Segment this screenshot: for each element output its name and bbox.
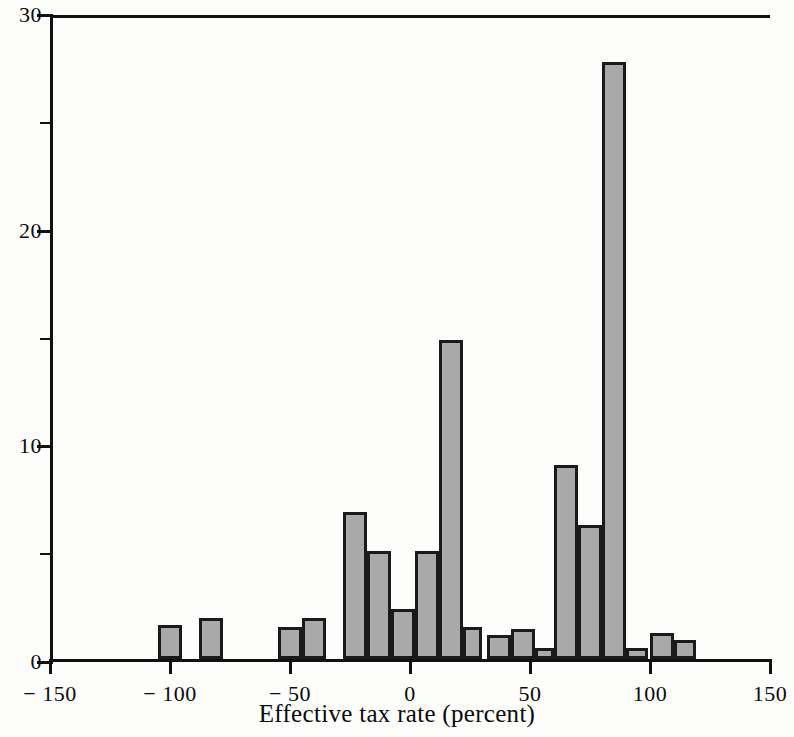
y-axis-tick-label: 30 bbox=[19, 4, 42, 26]
x-axis-tick bbox=[169, 659, 172, 674]
histogram-bar bbox=[650, 633, 674, 659]
histogram-bar bbox=[511, 629, 535, 659]
top-frame-line bbox=[50, 15, 770, 18]
y-axis-tick-label: 0 bbox=[31, 651, 43, 673]
histogram-bar bbox=[391, 609, 415, 659]
histogram-bar bbox=[578, 525, 602, 659]
plot-area: 0102030 − 150− 100− 50050100150 bbox=[50, 15, 770, 662]
y-axis-tick-label: 20 bbox=[19, 219, 42, 241]
x-axis-tick bbox=[529, 659, 532, 674]
histogram-bar bbox=[158, 625, 182, 660]
y-axis-tick bbox=[40, 122, 53, 124]
histogram-figure: 0102030 − 150− 100− 50050100150 Effectiv… bbox=[0, 0, 794, 737]
histogram-bar bbox=[626, 648, 648, 659]
y-axis-tick-label: 10 bbox=[19, 435, 42, 457]
y-axis-tick bbox=[40, 338, 53, 340]
histogram-bar bbox=[554, 465, 578, 659]
histogram-bar bbox=[602, 62, 626, 659]
histogram-bar bbox=[343, 512, 367, 659]
x-axis-tick bbox=[49, 659, 52, 674]
histogram-bar bbox=[367, 551, 391, 659]
histogram-bar bbox=[674, 640, 696, 659]
histogram-bar bbox=[439, 340, 463, 659]
histogram-bar bbox=[415, 551, 439, 659]
x-axis-tick bbox=[769, 659, 772, 674]
x-axis-tick bbox=[649, 659, 652, 674]
histogram-bar bbox=[302, 618, 326, 659]
y-axis-tick bbox=[40, 553, 53, 555]
x-axis-tick bbox=[289, 659, 292, 674]
histogram-bar bbox=[278, 627, 302, 659]
x-axis-title: Effective tax rate (percent) bbox=[0, 700, 794, 728]
histogram-bar bbox=[487, 635, 511, 659]
histogram-bar bbox=[463, 627, 482, 659]
x-axis-tick bbox=[409, 659, 412, 674]
histogram-bar bbox=[199, 618, 223, 659]
histogram-bar bbox=[535, 648, 554, 659]
